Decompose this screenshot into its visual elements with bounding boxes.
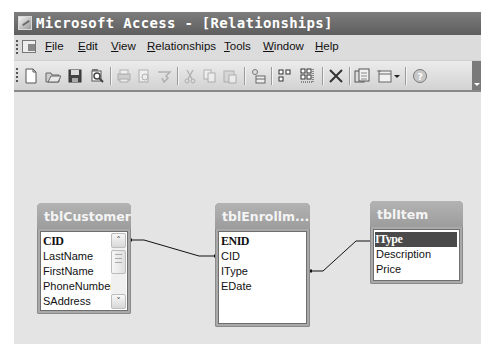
print-preview-icon[interactable]: [136, 68, 152, 84]
access-window: Microsoft Access - [Relationships] File …: [14, 12, 481, 344]
show-table-icon[interactable]: [250, 68, 266, 84]
menu-view[interactable]: View: [111, 40, 136, 52]
toolbar-separator: [177, 67, 179, 85]
table-header[interactable]: tblCustomer: [37, 203, 131, 229]
toolbar-separator: [110, 67, 112, 85]
field-item-pk[interactable]: ENID: [221, 234, 249, 249]
toolbar-separator: [349, 67, 351, 85]
access-key-icon[interactable]: [18, 16, 32, 30]
file-search-icon[interactable]: [89, 68, 105, 84]
field-list[interactable]: IType Description Price: [373, 229, 460, 281]
menu-tools[interactable]: Tools: [224, 40, 251, 52]
field-item[interactable]: Description: [376, 247, 431, 262]
field-item-pk[interactable]: CID: [43, 234, 64, 249]
field-list[interactable]: CID LastName FirstName PhoneNumber SAddr…: [40, 231, 128, 311]
open-icon[interactable]: [45, 68, 61, 84]
menu-help[interactable]: Help: [315, 40, 339, 52]
relationships-canvas[interactable]: tblCustomer CID LastName FirstName Phone…: [14, 92, 481, 344]
help-icon[interactable]: ?: [412, 68, 428, 84]
table-name: tblEnrollm...: [222, 209, 309, 224]
field-item[interactable]: IType: [221, 264, 248, 279]
field-list[interactable]: ENID CID IType EDate: [218, 231, 307, 324]
field-list-scrollbar[interactable]: ˄ ˅: [111, 233, 126, 309]
paste-icon[interactable]: [222, 68, 238, 84]
menu-window[interactable]: Window: [263, 40, 304, 52]
cut-icon[interactable]: [182, 68, 198, 84]
delete-icon[interactable]: [328, 68, 344, 84]
scroll-up-button[interactable]: ˄: [111, 233, 126, 248]
table-name: tblItem: [377, 207, 428, 222]
toolbar-grip-handle[interactable]: [16, 68, 19, 84]
show-direct-relationships-icon[interactable]: [277, 68, 293, 84]
toolbar-separator: [322, 67, 324, 85]
field-item[interactable]: CID: [221, 249, 240, 264]
table-tblitem[interactable]: tblItem IType Description Price: [370, 201, 463, 284]
scroll-thumb[interactable]: [111, 250, 126, 274]
menu-file[interactable]: File: [45, 40, 64, 52]
field-item[interactable]: EDate: [221, 279, 252, 294]
field-item[interactable]: SAddress: [43, 294, 91, 309]
field-item[interactable]: FirstName: [43, 264, 94, 279]
new-object-dropdown-icon[interactable]: [393, 68, 401, 84]
print-icon[interactable]: [116, 68, 132, 84]
table-header[interactable]: tblEnrollm...: [215, 203, 310, 229]
window-title: Microsoft Access - [Relationships]: [36, 15, 333, 31]
relationship-line-customer-enrollment[interactable]: [129, 239, 217, 258]
field-item[interactable]: Price: [376, 262, 401, 277]
table-name: tblCustomer: [44, 209, 131, 224]
menu-relationships[interactable]: Relationships: [147, 40, 216, 52]
new-icon[interactable]: [23, 68, 39, 84]
relationships-window-icon[interactable]: [22, 40, 36, 53]
table-tblenrollment[interactable]: tblEnrollm... ENID CID IType EDate: [215, 203, 310, 327]
toolbar-separator: [405, 67, 407, 85]
toolbar-separator: [244, 67, 246, 85]
toolbar-options-button[interactable]: [472, 61, 481, 90]
relationship-line-enrollment-item[interactable]: [309, 240, 373, 273]
field-item[interactable]: LastName: [43, 249, 93, 264]
menu-bar: File Edit View Relationships Tools Windo…: [14, 35, 481, 61]
table-tblcustomer[interactable]: tblCustomer CID LastName FirstName Phone…: [37, 203, 131, 314]
save-icon[interactable]: [67, 68, 83, 84]
title-bar[interactable]: Microsoft Access - [Relationships]: [14, 12, 481, 35]
menubar-grip-handle[interactable]: [16, 40, 19, 56]
scroll-down-button[interactable]: ˅: [111, 294, 126, 309]
table-header[interactable]: tblItem: [370, 201, 463, 227]
database-window-icon[interactable]: [354, 68, 370, 84]
show-all-relationships-icon[interactable]: [300, 68, 316, 84]
relationship-toolbar: ?: [14, 61, 481, 92]
svg-text:?: ?: [417, 72, 422, 82]
field-item[interactable]: PhoneNumber: [43, 279, 114, 294]
toolbar-separator: [271, 67, 273, 85]
field-item-pk-selected[interactable]: IType: [375, 232, 457, 247]
copy-icon[interactable]: [202, 68, 218, 84]
new-object-icon[interactable]: [376, 68, 392, 84]
spelling-icon[interactable]: [156, 68, 172, 84]
menu-edit[interactable]: Edit: [78, 40, 98, 52]
